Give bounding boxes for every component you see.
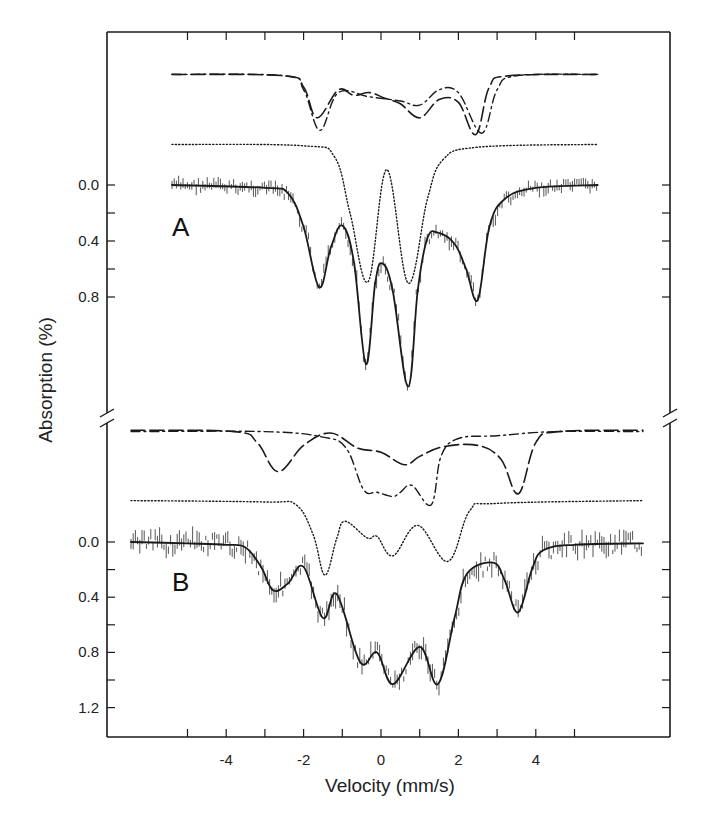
series-dashdot-b bbox=[131, 431, 643, 505]
y-tick-label-b: 0.0 bbox=[78, 533, 99, 550]
y-tick-label-b: 0.8 bbox=[78, 643, 99, 660]
series-dashdot-a bbox=[172, 74, 598, 133]
experimental-data-b bbox=[131, 526, 641, 695]
x-tick-label: 4 bbox=[532, 751, 540, 768]
experimental-data-a bbox=[172, 176, 597, 391]
x-tick-label: 0 bbox=[377, 751, 385, 768]
x-tick-label: 2 bbox=[454, 751, 462, 768]
series-dashed-b bbox=[131, 430, 643, 494]
x-tick-label: -2 bbox=[297, 751, 310, 768]
y-tick-label-a: 0.0 bbox=[78, 176, 99, 193]
y-tick-label-a: 0.8 bbox=[78, 288, 99, 305]
series-dashed-a bbox=[172, 74, 598, 134]
panel-a-plot bbox=[172, 74, 598, 390]
series-dotted-a bbox=[172, 144, 598, 283]
y-tick-label-b: 0.4 bbox=[78, 588, 99, 605]
y-tick-label-b: 1.2 bbox=[78, 699, 99, 716]
panel-b-label: B bbox=[172, 567, 189, 597]
mossbauer-chart: -4-20240.00.40.80.00.40.81.2 A B Velocit… bbox=[0, 0, 702, 832]
series-dotted-b bbox=[131, 501, 643, 576]
x-axis-title: Velocity (mm/s) bbox=[325, 775, 455, 796]
series-solid-b bbox=[131, 542, 643, 685]
panel-a-label: A bbox=[172, 212, 190, 242]
y-axis-title: Absorption (%) bbox=[35, 317, 56, 443]
plot-frame bbox=[100, 32, 677, 737]
y-tick-label-a: 0.4 bbox=[78, 232, 99, 249]
panel-b-plot bbox=[131, 430, 643, 695]
series-solid-a bbox=[172, 185, 598, 387]
axis-ticks: -4-20240.00.40.80.00.40.81.2 bbox=[78, 32, 670, 768]
x-tick-label: -4 bbox=[220, 751, 233, 768]
